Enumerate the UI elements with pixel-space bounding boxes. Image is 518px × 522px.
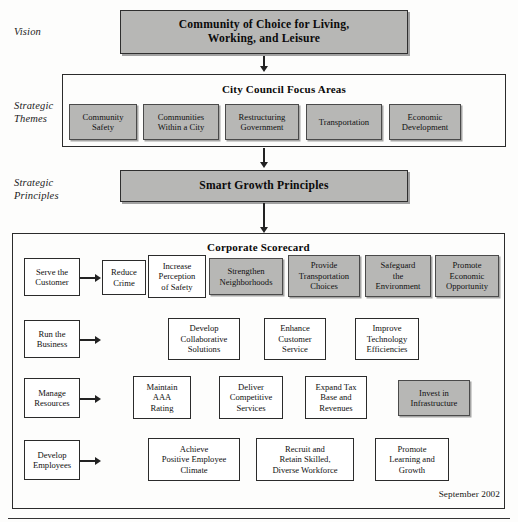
objective-box-increase-perception-of-safety[interactable]: Increase Perception of Safety	[148, 255, 206, 298]
focus-area-box-restructuring-government[interactable]: Restructuring Government	[225, 104, 299, 140]
focus-area-box-transportation[interactable]: Transportation	[306, 104, 382, 140]
objective-box-maintain-aaa-rating[interactable]: Maintain AAA Rating	[133, 376, 191, 419]
objective-box-deliver-competitive-services[interactable]: Deliver Competitive Services	[219, 376, 283, 419]
focus-area-box-community-safety[interactable]: Community Safety	[69, 104, 137, 140]
strategy-map-page: Vision Community of Choice for Living, W…	[0, 0, 518, 522]
objective-box-safeguard-the-environment[interactable]: Safeguard the Environment	[365, 255, 431, 297]
perspective-box-serve-the-customer[interactable]: Serve the Customer	[24, 258, 80, 296]
corporate-scorecard-title: Corporate Scorecard	[13, 241, 504, 253]
stage-label-strategic-principles: Strategic Principles	[14, 177, 94, 202]
principles-banner-text: Smart Growth Principles	[199, 179, 328, 194]
objective-box-develop-collaborative-solutions[interactable]: Develop Collaborative Solutions	[168, 318, 240, 360]
focus-area-box-communities-within-a-city[interactable]: Communities Within a City	[143, 104, 219, 140]
arrow-row-serve-the-customer	[80, 270, 101, 286]
objective-box-reduce-crime[interactable]: Reduce Crime	[102, 260, 146, 295]
arrow-row-run-the-business	[80, 332, 101, 348]
arrow-row-manage-resources	[80, 391, 101, 407]
focus-area-box-economic-development[interactable]: Economic Development	[389, 104, 461, 140]
objective-box-provide-transportation-choices[interactable]: Provide Transportation Choices	[288, 255, 360, 297]
arrow-vision-to-focus-areas	[256, 56, 272, 72]
objective-box-expand-tax-base-and-revenues[interactable]: Expand Tax Base and Revenues	[305, 376, 367, 419]
focus-areas-title: City Council Focus Areas	[63, 83, 505, 95]
perspective-box-manage-resources[interactable]: Manage Resources	[24, 378, 80, 418]
principles-banner: Smart Growth Principles	[120, 170, 408, 202]
objective-box-recruit-and-retain-skilled-diverse-workforce[interactable]: Recruit and Retain Skilled, Diverse Work…	[256, 438, 354, 481]
perspective-box-run-the-business[interactable]: Run the Business	[24, 320, 80, 358]
objective-box-invest-in-infrastructure[interactable]: Invest in Infrastructure	[398, 380, 470, 416]
vision-banner-text: Community of Choice for Living, Working,…	[179, 18, 350, 47]
objective-box-improve-technology-efficiencies[interactable]: Improve Technology Efficiencies	[355, 318, 419, 360]
objective-box-promote-economic-opportunity[interactable]: Promote Economic Opportunity	[435, 255, 499, 297]
objective-box-enhance-customer-service[interactable]: Enhance Customer Service	[264, 318, 326, 360]
objective-box-promote-learning-and-growth[interactable]: Promote Learning and Growth	[375, 438, 449, 481]
objective-box-achieve-positive-employee-climate[interactable]: Achieve Positive Employee Climate	[148, 438, 240, 481]
perspective-box-develop-employees[interactable]: Develop Employees	[24, 440, 80, 480]
page-bottom-rule	[8, 518, 510, 519]
objective-box-strengthen-neighborhoods[interactable]: Strengthen Neighborhoods	[209, 258, 283, 295]
stage-label-vision: Vision	[14, 26, 94, 39]
arrow-principles-to-scorecard	[256, 203, 272, 233]
date-stamp: September 2002	[439, 489, 500, 499]
vision-banner: Community of Choice for Living, Working,…	[120, 10, 408, 54]
arrow-row-develop-employees	[80, 453, 101, 469]
arrow-focus-areas-to-principles	[256, 148, 272, 168]
